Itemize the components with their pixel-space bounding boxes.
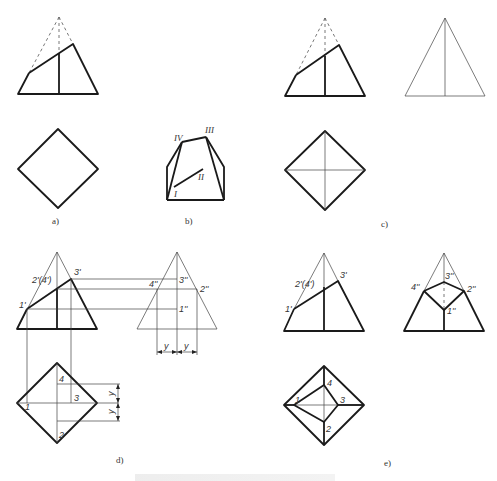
panel-a-top-view-square xyxy=(18,129,98,208)
arrowhead xyxy=(116,416,120,421)
point-1-label: 1 xyxy=(25,402,30,412)
arrowhead xyxy=(116,403,120,408)
y-dim-label: y xyxy=(183,341,189,351)
hidden-edge-left xyxy=(29,17,59,73)
panel-c: c) xyxy=(285,18,485,229)
y-dim-label: y xyxy=(106,409,116,415)
panel-b: IV III II I b) xyxy=(167,125,224,226)
point-I-label: I xyxy=(173,189,178,199)
point-3p-label: 3' xyxy=(74,267,81,277)
projection-drawing: a) IV III II I b) c) xyxy=(0,0,497,481)
arrowhead xyxy=(192,350,197,354)
arrowhead xyxy=(157,350,162,354)
point-4-label: 4 xyxy=(327,378,332,388)
point-1p-label: 1' xyxy=(285,304,292,314)
panel-d-front-view: 1' 2'(4') 3' xyxy=(17,252,97,329)
point-2pp-label: 2'' xyxy=(466,284,476,294)
right-edge-upper xyxy=(324,253,338,281)
panel-c-top-view xyxy=(285,131,365,210)
hidden-edge-left xyxy=(296,18,325,75)
panel-e-front-view: 1' 2'(4') 3' xyxy=(284,253,364,331)
panel-e-label: e) xyxy=(384,458,391,468)
panel-b-label: b) xyxy=(185,216,193,226)
edge-III-base xyxy=(206,137,224,200)
panel-e-side-view: 4'' 3'' 2'' 1'' xyxy=(404,253,484,331)
arrowhead xyxy=(172,350,177,354)
point-2pp-label: 2'' xyxy=(199,284,209,294)
point-III-label: III xyxy=(204,125,215,135)
point-2p4p-label: 2'(4') xyxy=(294,279,314,289)
hidden-edge-right xyxy=(59,17,73,44)
arrowhead xyxy=(116,398,120,403)
arrowhead xyxy=(116,384,120,389)
panel-d-projection-lines xyxy=(27,279,197,403)
panel-d: 1' 2'(4') 3' y y 4'' 3'' 2'' 1'' xyxy=(17,252,217,465)
point-1p-label: 1' xyxy=(19,300,26,310)
point-3pp-label: 3'' xyxy=(179,275,188,285)
point-2-label: 2 xyxy=(58,430,64,440)
point-3p-label: 3' xyxy=(340,270,347,280)
point-3-label: 3 xyxy=(74,393,79,403)
point-1pp-label: 1'' xyxy=(447,306,456,316)
left-edge-upper xyxy=(424,253,444,291)
arrowhead xyxy=(177,350,182,354)
point-3-label: 3 xyxy=(340,395,345,405)
edge-IV-III xyxy=(182,137,206,142)
point-IV-label: IV xyxy=(173,133,184,143)
panel-d-top-view: y y 1 2 3 4 xyxy=(17,363,120,443)
hidden-edge-right xyxy=(325,18,339,45)
panel-c-side-view xyxy=(405,18,485,96)
y-dim-label: y xyxy=(163,341,169,351)
panel-e: 1' 2'(4') 3' 4'' 3'' 2'' 1'' 1 xyxy=(284,253,484,468)
point-2p4p-label: 2'(4') xyxy=(31,275,51,285)
point-4pp-label: 4'' xyxy=(411,282,420,292)
point-2-label: 2 xyxy=(325,424,331,434)
panel-e-top-view: 1 2 3 4 xyxy=(284,366,364,445)
panel-a-label: a) xyxy=(52,216,59,226)
point-3pp-label: 3'' xyxy=(445,271,454,281)
figure-caption xyxy=(135,474,335,481)
cut-pyramid-outline xyxy=(18,44,98,94)
panel-a-front-view xyxy=(18,17,98,94)
panel-a: a) xyxy=(18,17,98,226)
point-4-label: 4 xyxy=(59,374,64,384)
point-1-label: 1 xyxy=(295,395,300,405)
panel-c-label: c) xyxy=(381,219,388,229)
point-II-label: II xyxy=(197,172,205,182)
panel-c-front-view xyxy=(285,18,365,96)
y-dim-label: y xyxy=(106,391,116,397)
panel-d-side-view: y y 4'' 3'' 2'' 1'' xyxy=(137,252,217,355)
section-polygon xyxy=(294,385,338,422)
panel-d-label: d) xyxy=(116,455,124,465)
point-1pp-label: 1'' xyxy=(179,304,188,314)
point-4pp-label: 4'' xyxy=(149,279,158,289)
right-edge-upper xyxy=(57,252,71,279)
